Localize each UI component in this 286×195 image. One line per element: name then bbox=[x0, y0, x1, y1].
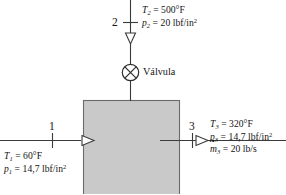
diagram-canvas: 2 T2 = 500°F p2 = 20 lbf/in2 Válvula 1 3… bbox=[0, 0, 286, 194]
stream-3-number-label: 3 bbox=[189, 120, 195, 134]
stream-3-temperature: T3 = 320°F bbox=[210, 118, 272, 131]
stream-2-properties: T2 = 500°F p2 = 20 lbf/in2 bbox=[142, 4, 197, 29]
stream-3-mass-flow: m3 = 20 lb/s bbox=[210, 143, 272, 156]
stream-3-p-value: = 14,7 lbf/in bbox=[218, 131, 269, 142]
mass-flow-symbol: m bbox=[210, 143, 217, 154]
stream-1-temperature: T1 = 60°F bbox=[4, 150, 66, 163]
stream-2-arrowhead-icon bbox=[126, 33, 136, 44]
stream-2-p-unit-exponent: 2 bbox=[194, 17, 197, 24]
valve-label: Válvula bbox=[143, 66, 175, 78]
stream-3-pressure: p3 = 14,7 lbf/in2 bbox=[210, 131, 272, 144]
stream-1-number-label: 1 bbox=[49, 120, 55, 134]
stream-3-arrowhead-icon bbox=[196, 136, 208, 146]
stream-3-properties: T3 = 320°F p3 = 14,7 lbf/in2 m3 = 20 lb/… bbox=[210, 118, 272, 156]
stream-2-T-value: = 500°F bbox=[151, 4, 185, 15]
stream-1-p-value: = 14,7 lbf/in bbox=[12, 163, 63, 174]
stream-1-properties: T1 = 60°F p1 = 14,7 lbf/in2 bbox=[4, 150, 66, 175]
stream-3-p-unit-exponent: 2 bbox=[269, 131, 272, 138]
stream-1-p-unit-exponent: 2 bbox=[63, 163, 66, 170]
stream-3-T-value: = 320°F bbox=[219, 118, 253, 129]
stream-2-temperature: T2 = 500°F bbox=[142, 4, 197, 17]
stream-2-pressure: p2 = 20 lbf/in2 bbox=[142, 17, 197, 30]
stream-3-m-symbol: m bbox=[210, 143, 217, 154]
stream-2-p-value: = 20 lbf/in bbox=[150, 17, 194, 28]
control-volume-box bbox=[84, 101, 180, 195]
stream-3-m-value: = 20 lb/s bbox=[220, 143, 257, 154]
stream-2-number-label: 2 bbox=[112, 16, 118, 30]
stream-1-pressure: p1 = 14,7 lbf/in2 bbox=[4, 163, 66, 176]
stream-1-T-value: = 60°F bbox=[13, 150, 42, 161]
mass-flow-dot-accent bbox=[213, 140, 215, 142]
